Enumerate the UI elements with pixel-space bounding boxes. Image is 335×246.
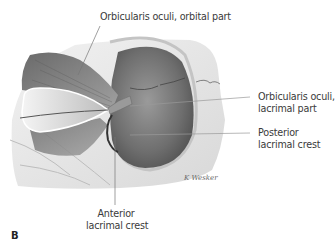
label-line-2: lacrimal crest	[86, 220, 146, 232]
label-orbicularis-lacrimal-part: Orbicularis oculi, lacrimal part	[258, 91, 335, 115]
label-line-2: lacrimal crest	[258, 139, 320, 151]
label-text: Orbicularis oculi, orbital part	[100, 11, 231, 22]
label-line-1: Posterior	[258, 127, 320, 139]
label-anterior-lacrimal-crest: Anterior lacrimal crest	[86, 208, 146, 232]
label-line-2: lacrimal part	[258, 103, 335, 115]
label-line-1: Orbicularis oculi,	[258, 91, 335, 103]
label-line-1: Anterior	[86, 208, 146, 220]
label-orbicularis-orbital-part: Orbicularis oculi, orbital part	[100, 11, 231, 23]
artist-signature: K Wesker	[183, 174, 218, 182]
panel-letter: B	[11, 230, 19, 241]
label-posterior-lacrimal-crest: Posterior lacrimal crest	[258, 127, 320, 151]
